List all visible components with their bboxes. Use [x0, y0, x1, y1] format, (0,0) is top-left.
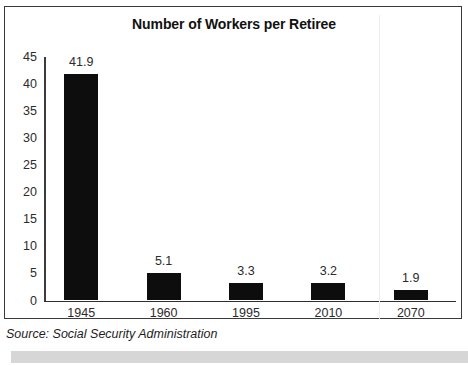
bar — [311, 283, 345, 300]
bar — [147, 273, 181, 301]
scan-artifact-line — [379, 15, 380, 320]
bar-value-label: 1.9 — [402, 271, 419, 285]
chart-frame: Number of Workers per Retiree 0510152025… — [4, 6, 462, 319]
x-tick-label: 1945 — [67, 306, 95, 320]
y-tick-label: 0 — [30, 294, 37, 308]
bar-value-label: 5.1 — [155, 254, 172, 268]
bar-value-label: 3.3 — [237, 264, 254, 278]
x-tick-label: 2010 — [314, 306, 342, 320]
bottom-gray-band — [11, 351, 468, 363]
chart-title: Number of Workers per Retiree — [5, 16, 463, 32]
y-tick-label: 5 — [30, 266, 37, 280]
y-tick-label: 25 — [23, 158, 37, 172]
x-axis-line — [44, 301, 456, 303]
y-axis-line — [44, 57, 46, 302]
bar — [229, 283, 263, 301]
y-tick-label: 15 — [23, 212, 37, 226]
y-tick-label: 20 — [23, 185, 37, 199]
x-tick-label: 1960 — [150, 306, 178, 320]
source-note: Source: Social Security Administration — [6, 327, 217, 341]
y-tick-label: 45 — [23, 50, 37, 64]
y-tick-label: 40 — [23, 77, 37, 91]
bar — [394, 290, 428, 300]
bar — [64, 74, 98, 301]
bar-value-label: 41.9 — [69, 55, 93, 69]
scanned-page: Number of Workers per Retiree 0510152025… — [0, 0, 468, 365]
bar-value-label: 3.2 — [320, 264, 337, 278]
x-tick-label: 2070 — [397, 306, 425, 320]
x-tick-label: 1995 — [232, 306, 260, 320]
y-tick-label: 35 — [23, 104, 37, 118]
y-tick-label: 10 — [23, 239, 37, 253]
y-tick-label: 30 — [23, 131, 37, 145]
plot-area: 051015202530354045 41.95.13.33.21.9 1945… — [44, 57, 456, 302]
